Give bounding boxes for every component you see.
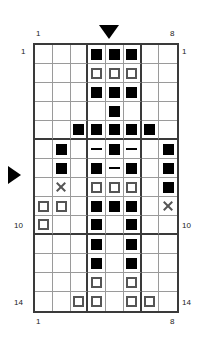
grid-cell[interactable] bbox=[35, 197, 53, 216]
grid-cell[interactable] bbox=[159, 45, 177, 64]
grid-cell[interactable] bbox=[88, 83, 106, 102]
grid-cell[interactable] bbox=[88, 178, 106, 197]
grid-cell[interactable] bbox=[71, 178, 89, 197]
grid-cell[interactable] bbox=[53, 197, 71, 216]
grid-cell[interactable] bbox=[124, 45, 142, 64]
grid-cell[interactable] bbox=[159, 140, 177, 159]
grid-cell[interactable] bbox=[106, 102, 124, 121]
grid-cell[interactable] bbox=[159, 121, 177, 140]
grid-cell[interactable] bbox=[88, 273, 106, 292]
grid-cell[interactable] bbox=[35, 159, 53, 178]
grid-cell[interactable] bbox=[71, 140, 89, 159]
grid-cell[interactable] bbox=[106, 159, 124, 178]
grid-cell[interactable] bbox=[124, 121, 142, 140]
grid-cell[interactable] bbox=[71, 273, 89, 292]
grid-cell[interactable] bbox=[53, 159, 71, 178]
grid-cell[interactable] bbox=[142, 83, 160, 102]
grid-cell[interactable] bbox=[35, 292, 53, 311]
grid-cell[interactable] bbox=[124, 83, 142, 102]
grid-cell[interactable] bbox=[35, 83, 53, 102]
grid-cell[interactable] bbox=[159, 235, 177, 254]
grid-cell[interactable] bbox=[88, 254, 106, 273]
grid-cell[interactable] bbox=[88, 121, 106, 140]
grid-cell[interactable] bbox=[53, 45, 71, 64]
grid-cell[interactable] bbox=[71, 83, 89, 102]
grid-cell[interactable] bbox=[88, 235, 106, 254]
grid-cell[interactable] bbox=[53, 273, 71, 292]
grid-cell[interactable] bbox=[88, 159, 106, 178]
grid-cell[interactable] bbox=[124, 216, 142, 235]
grid-cell[interactable] bbox=[53, 83, 71, 102]
grid-cell[interactable] bbox=[71, 121, 89, 140]
grid-cell[interactable] bbox=[124, 64, 142, 83]
grid-cell[interactable] bbox=[106, 235, 124, 254]
grid-cell[interactable] bbox=[124, 159, 142, 178]
grid-cell[interactable] bbox=[88, 64, 106, 83]
grid-cell[interactable] bbox=[88, 292, 106, 311]
grid-cell[interactable] bbox=[142, 273, 160, 292]
grid-cell[interactable] bbox=[106, 273, 124, 292]
grid-cell[interactable] bbox=[142, 178, 160, 197]
grid-cell[interactable] bbox=[35, 140, 53, 159]
grid-cell[interactable] bbox=[88, 140, 106, 159]
grid-cell[interactable] bbox=[53, 102, 71, 121]
grid-cell[interactable] bbox=[71, 254, 89, 273]
grid-cell[interactable] bbox=[53, 121, 71, 140]
grid-cell[interactable] bbox=[106, 45, 124, 64]
grid-cell[interactable] bbox=[124, 102, 142, 121]
grid-cell[interactable] bbox=[53, 64, 71, 83]
grid-cell[interactable] bbox=[35, 178, 53, 197]
grid-cell[interactable] bbox=[53, 292, 71, 311]
grid-cell[interactable] bbox=[106, 216, 124, 235]
grid-cell[interactable] bbox=[35, 273, 53, 292]
grid-cell[interactable] bbox=[142, 121, 160, 140]
grid-cell[interactable] bbox=[88, 102, 106, 121]
grid-cell[interactable] bbox=[159, 197, 177, 216]
grid-cell[interactable] bbox=[35, 254, 53, 273]
grid-cell[interactable] bbox=[159, 273, 177, 292]
grid-cell[interactable] bbox=[124, 235, 142, 254]
grid-cell[interactable] bbox=[159, 159, 177, 178]
grid-cell[interactable] bbox=[142, 159, 160, 178]
grid-cell[interactable] bbox=[106, 121, 124, 140]
grid-cell[interactable] bbox=[142, 254, 160, 273]
grid-cell[interactable] bbox=[71, 235, 89, 254]
grid-cell[interactable] bbox=[35, 216, 53, 235]
grid-cell[interactable] bbox=[71, 216, 89, 235]
grid-cell[interactable] bbox=[88, 216, 106, 235]
grid-cell[interactable] bbox=[106, 140, 124, 159]
grid-cell[interactable] bbox=[88, 197, 106, 216]
grid-cell[interactable] bbox=[142, 235, 160, 254]
grid-cell[interactable] bbox=[159, 178, 177, 197]
grid-cell[interactable] bbox=[159, 216, 177, 235]
grid-cell[interactable] bbox=[71, 197, 89, 216]
grid-cell[interactable] bbox=[142, 102, 160, 121]
grid-cell[interactable] bbox=[106, 292, 124, 311]
grid-cell[interactable] bbox=[106, 178, 124, 197]
grid-cell[interactable] bbox=[71, 45, 89, 64]
grid-cell[interactable] bbox=[106, 64, 124, 83]
grid-cell[interactable] bbox=[124, 197, 142, 216]
grid-cell[interactable] bbox=[35, 235, 53, 254]
grid-cell[interactable] bbox=[71, 292, 89, 311]
grid-cell[interactable] bbox=[142, 197, 160, 216]
grid-cell[interactable] bbox=[35, 64, 53, 83]
grid-cell[interactable] bbox=[142, 216, 160, 235]
grid-cell[interactable] bbox=[71, 102, 89, 121]
grid-cell[interactable] bbox=[159, 64, 177, 83]
grid-cell[interactable] bbox=[142, 64, 160, 83]
grid-cell[interactable] bbox=[53, 140, 71, 159]
grid-cell[interactable] bbox=[106, 83, 124, 102]
grid-cell[interactable] bbox=[159, 292, 177, 311]
grid-cell[interactable] bbox=[88, 45, 106, 64]
grid-cell[interactable] bbox=[142, 140, 160, 159]
grid-cell[interactable] bbox=[71, 159, 89, 178]
grid-cell[interactable] bbox=[71, 64, 89, 83]
grid-cell[interactable] bbox=[124, 273, 142, 292]
grid-cell[interactable] bbox=[159, 102, 177, 121]
grid-cell[interactable] bbox=[53, 178, 71, 197]
grid-cell[interactable] bbox=[53, 235, 71, 254]
grid-cell[interactable] bbox=[159, 254, 177, 273]
grid-cell[interactable] bbox=[124, 254, 142, 273]
grid-cell[interactable] bbox=[35, 121, 53, 140]
